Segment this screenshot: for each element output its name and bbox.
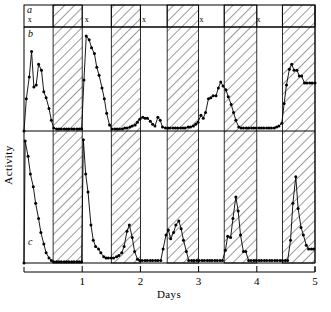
x-tick-label: 1	[79, 275, 85, 287]
data-point-c	[281, 259, 284, 262]
data-point-b	[224, 88, 227, 91]
data-point-b	[285, 83, 288, 86]
data-point-b	[28, 76, 31, 79]
data-point-c	[255, 259, 258, 262]
data-point-b	[118, 128, 121, 131]
data-point-c	[276, 259, 279, 262]
data-point-c	[265, 259, 268, 262]
data-point-b	[314, 81, 317, 84]
data-point-b	[73, 128, 76, 131]
data-point-c	[45, 251, 48, 254]
data-point-b	[110, 128, 113, 131]
data-point-b	[215, 94, 218, 97]
data-point-b	[176, 127, 179, 130]
data-point-b	[85, 34, 88, 37]
data-point-b	[189, 126, 192, 129]
data-point-c	[23, 262, 26, 265]
x-tick-label: 2	[138, 275, 144, 287]
data-point-b	[161, 126, 164, 129]
data-point-b	[217, 86, 220, 89]
data-point-c	[294, 175, 297, 178]
light-phase-x-mark: x	[85, 15, 89, 24]
data-point-c	[185, 250, 188, 253]
data-point-c	[39, 231, 42, 234]
data-point-c	[24, 140, 27, 143]
data-point-b	[98, 74, 101, 77]
data-point-b	[288, 68, 291, 71]
data-point-b	[131, 125, 134, 128]
data-point-c	[92, 239, 95, 242]
data-point-b	[169, 127, 172, 130]
x-axis: 12345 Days	[24, 266, 318, 300]
data-point-c	[305, 244, 308, 247]
data-point-b	[138, 118, 141, 121]
data-point-c	[42, 242, 45, 245]
data-point-c	[244, 250, 247, 253]
data-point-b	[82, 79, 85, 82]
data-point-c	[229, 236, 232, 239]
data-point-c	[169, 237, 172, 240]
data-point-c	[297, 207, 300, 210]
data-point-c	[52, 260, 55, 263]
data-point-b	[230, 103, 233, 106]
data-point-c	[97, 248, 100, 251]
data-point-b	[227, 95, 230, 98]
x-axis-title: Days	[157, 288, 181, 300]
data-point-b	[209, 96, 212, 99]
x-tick-label: 4	[254, 275, 260, 287]
data-point-c	[177, 220, 180, 223]
data-point-c	[32, 185, 35, 188]
data-point-c	[198, 259, 201, 262]
dark-phase-band	[224, 5, 257, 263]
data-point-b	[35, 83, 38, 86]
data-point-b	[290, 63, 293, 66]
data-point-b	[234, 119, 237, 122]
data-point-b	[194, 123, 197, 126]
data-point-b	[305, 81, 308, 84]
data-point-c	[128, 223, 131, 226]
data-point-c	[226, 235, 229, 238]
data-point-c	[300, 226, 303, 229]
data-point-c	[289, 239, 292, 242]
data-point-c	[270, 259, 273, 262]
y-axis-title: Activity	[2, 145, 14, 184]
dark-phase-band	[282, 5, 315, 263]
data-point-b	[199, 114, 202, 117]
data-point-b	[280, 122, 283, 125]
activity-chart: xxxxx a b c 12345	[0, 0, 331, 312]
data-point-b	[50, 119, 53, 122]
data-point-b	[42, 90, 45, 93]
data-point-b	[90, 46, 93, 49]
data-point-b	[156, 116, 159, 119]
data-point-b	[48, 107, 51, 110]
data-point-b	[242, 127, 245, 130]
data-point-c	[89, 223, 92, 226]
data-point-c	[187, 259, 190, 262]
data-point-b	[149, 120, 152, 123]
data-point-b	[103, 97, 106, 100]
data-point-c	[307, 248, 310, 251]
data-point-c	[29, 173, 32, 176]
data-point-c	[192, 259, 195, 262]
data-point-c	[174, 223, 177, 226]
data-point-c	[159, 259, 162, 262]
data-point-b	[40, 69, 43, 72]
data-point-b	[204, 111, 207, 114]
data-point-c	[167, 228, 170, 231]
data-point-c	[180, 227, 183, 230]
data-point-c	[302, 234, 305, 237]
data-point-c	[82, 138, 85, 141]
data-point-b	[255, 127, 258, 130]
data-point-c	[286, 259, 289, 262]
light-phase-x-mark: x	[200, 15, 204, 24]
data-point-b	[184, 127, 187, 130]
data-point-b	[60, 128, 63, 131]
data-point-b	[30, 50, 33, 53]
data-point-c	[99, 251, 102, 254]
data-point-b	[283, 102, 286, 105]
data-point-c	[260, 259, 263, 262]
data-point-b	[146, 117, 149, 120]
data-point-c	[34, 202, 37, 205]
data-point-b	[219, 81, 222, 84]
panel-letter-c: c	[28, 236, 33, 247]
